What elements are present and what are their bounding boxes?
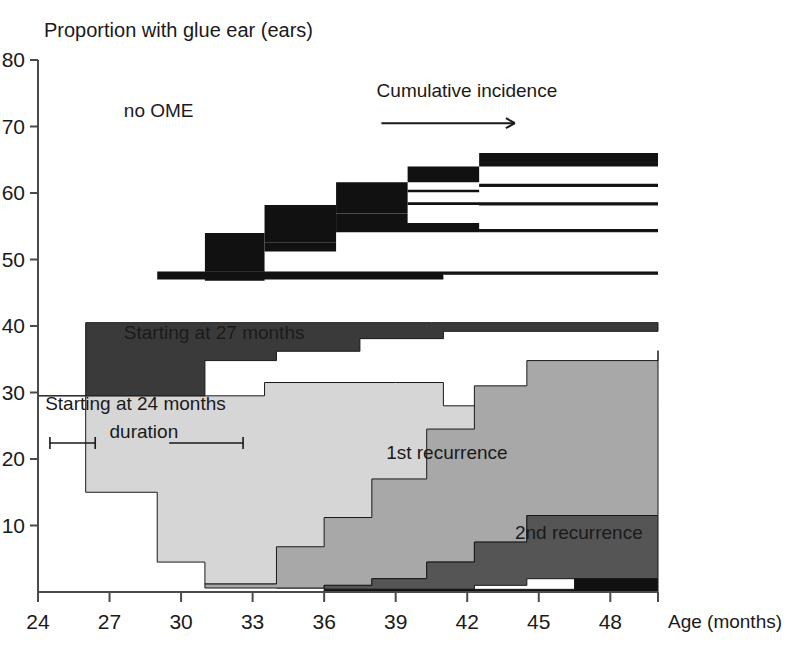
y-tick-label-80: 80 <box>2 48 25 71</box>
annotation-second-recurrence: 2nd recurrence <box>515 522 643 543</box>
series-6 <box>157 153 658 281</box>
y-tick-label-50: 50 <box>2 248 25 271</box>
band-4 <box>336 223 658 232</box>
chart-title: Proportion with glue ear (ears) <box>44 19 313 41</box>
y-tick-label-70: 70 <box>2 115 25 138</box>
annotation-starting-24: Starting at 24 months <box>45 393 226 414</box>
x-tick-label-24: 24 <box>26 610 50 633</box>
annotation-no-ome: no OME <box>124 100 194 121</box>
x-tick-label-33: 33 <box>241 610 264 633</box>
y-tick-label-10: 10 <box>2 514 25 537</box>
glue-ear-chart: 1020304050607080242730333639424548 no OM… <box>0 0 795 663</box>
y-tick-label-60: 60 <box>2 181 25 204</box>
chart-canvas: 1020304050607080242730333639424548 no OM… <box>0 0 795 663</box>
band-5 <box>157 271 658 279</box>
x-tick-label-39: 39 <box>384 610 407 633</box>
x-tick-label-48: 48 <box>599 610 622 633</box>
annotation-duration: duration <box>110 421 179 442</box>
x-tick-label-27: 27 <box>98 610 121 633</box>
x-tick-label-42: 42 <box>456 610 479 633</box>
annotation-cumulative-incidence: Cumulative incidence <box>377 80 558 101</box>
y-tick-label-20: 20 <box>2 447 25 470</box>
x-tick-label-45: 45 <box>527 610 550 633</box>
y-tick-label-30: 30 <box>2 381 25 404</box>
x-tick-label-36: 36 <box>312 610 335 633</box>
x-axis-title: Age (months) <box>668 611 782 632</box>
x-tick-label-30: 30 <box>169 610 192 633</box>
annotation-first-recurrence: 1st recurrence <box>386 442 507 463</box>
y-tick-label-40: 40 <box>2 314 25 337</box>
annotation-starting-27: Starting at 27 months <box>124 322 305 343</box>
